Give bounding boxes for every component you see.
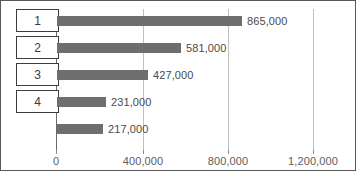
category-box-label: 2	[34, 41, 41, 55]
bar-value-1: 865,000	[247, 15, 287, 27]
tick-mark-800000	[228, 150, 229, 154]
x-tick-label-1: 400,000	[123, 155, 163, 167]
x-tick-label-0: 0	[53, 155, 59, 167]
category-box-2[interactable]: 2	[16, 36, 59, 59]
plot-area: 0 400,000 800,000 1,200,000 1 2 3 4 865,…	[1, 1, 356, 171]
bar-chart-frame: 0 400,000 800,000 1,200,000 1 2 3 4 865,…	[0, 0, 356, 171]
category-box-1[interactable]: 1	[16, 9, 59, 32]
bar-2	[57, 43, 181, 53]
category-box-label: 4	[34, 95, 41, 109]
x-tick-label-2: 800,000	[208, 155, 248, 167]
tick-mark-0	[56, 150, 57, 154]
bar-1	[57, 16, 242, 26]
x-tick-label-3: 1,200,000	[288, 155, 338, 167]
bar-5	[57, 124, 103, 134]
category-box-label: 3	[34, 68, 41, 82]
category-box-label: 1	[34, 14, 41, 28]
tick-mark-400000	[143, 150, 144, 154]
bar-value-2: 581,000	[186, 42, 226, 54]
bar-3	[57, 70, 148, 80]
bar-value-3: 427,000	[153, 69, 193, 81]
gridline-1200000	[313, 9, 314, 150]
tick-mark-1200000	[313, 150, 314, 154]
category-box-3[interactable]: 3	[16, 63, 59, 86]
category-box-4[interactable]: 4	[16, 90, 59, 113]
bar-value-5: 217,000	[108, 123, 148, 135]
bar-4	[57, 97, 106, 107]
gridline-800000	[228, 9, 229, 150]
bar-value-4: 231,000	[111, 96, 151, 108]
